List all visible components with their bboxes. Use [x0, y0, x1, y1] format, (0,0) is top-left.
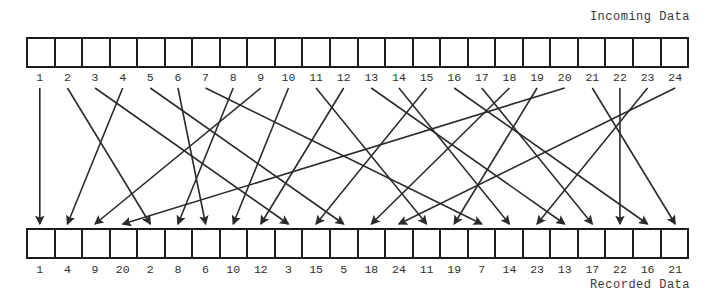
incoming-position-label: 23 [634, 69, 662, 87]
incoming-cell [83, 39, 111, 66]
connection-line [371, 88, 509, 224]
incoming-cell [193, 39, 221, 66]
incoming-position-label: 11 [302, 69, 330, 87]
recorded-cell [551, 230, 579, 257]
recorded-cell [111, 230, 139, 257]
recorded-position-label: 12 [247, 261, 275, 279]
incoming-position-label: 20 [551, 69, 579, 87]
recorded-cell [386, 230, 414, 257]
recorded-cell [662, 230, 688, 257]
recorded-position-label: 24 [385, 261, 413, 279]
incoming-position-label: 5 [137, 69, 165, 87]
recorded-position-label: 2 [137, 261, 165, 279]
connection-line [67, 88, 150, 224]
incoming-position-label: 16 [440, 69, 468, 87]
connection-line [399, 88, 675, 224]
incoming-cell [634, 39, 662, 66]
incoming-cell [166, 39, 194, 66]
incoming-cell [111, 39, 139, 66]
incoming-position-label: 15 [413, 69, 441, 87]
incoming-cell [221, 39, 249, 66]
connection-line [150, 88, 343, 224]
recorded-label-row: 149202861012315518241119714231317221621 [26, 261, 689, 279]
incoming-position-label: 18 [496, 69, 524, 87]
incoming-cell [441, 39, 469, 66]
recorded-position-label: 3 [275, 261, 303, 279]
incoming-position-label: 14 [385, 69, 413, 87]
connection-line [233, 88, 288, 224]
recorded-cell [303, 230, 331, 257]
incoming-position-label: 10 [275, 69, 303, 87]
recorded-cell [221, 230, 249, 257]
connection-line [316, 88, 427, 224]
incoming-cell [276, 39, 304, 66]
connection-line [399, 88, 510, 224]
connection-line [95, 88, 261, 224]
connection-line [206, 88, 482, 224]
incoming-position-label: 22 [606, 69, 634, 87]
incoming-cell [331, 39, 359, 66]
incoming-position-label: 12 [330, 69, 358, 87]
connection-line [454, 88, 647, 224]
incoming-position-label: 17 [468, 69, 496, 87]
recorded-position-label: 16 [634, 261, 662, 279]
recorded-data-caption: Recorded Data [590, 278, 690, 292]
recorded-cell [138, 230, 166, 257]
recorded-cell [359, 230, 387, 257]
connection-line [371, 88, 564, 224]
recorded-position-label: 6 [192, 261, 220, 279]
recorded-position-label: 1 [26, 261, 54, 279]
incoming-cell [386, 39, 414, 66]
incoming-position-label: 7 [192, 69, 220, 87]
incoming-position-label: 21 [579, 69, 607, 87]
incoming-cell [524, 39, 552, 66]
recorded-position-label: 11 [413, 261, 441, 279]
recorded-position-label: 14 [496, 261, 524, 279]
interleaver-diagram: Incoming Data 12345678910111213141516171… [0, 0, 714, 299]
recorded-position-label: 21 [661, 261, 689, 279]
recorded-cell [331, 230, 359, 257]
connection-line [123, 88, 565, 224]
incoming-label-row: 123456789101112131415161718192021222324 [26, 69, 689, 87]
incoming-position-label: 2 [54, 69, 82, 87]
recorded-position-label: 4 [54, 261, 82, 279]
incoming-data-caption: Incoming Data [590, 10, 690, 24]
incoming-position-label: 19 [523, 69, 551, 87]
incoming-data-tape [26, 37, 689, 68]
incoming-position-label: 9 [247, 69, 275, 87]
recorded-data-tape [26, 228, 689, 259]
incoming-position-label: 3 [81, 69, 109, 87]
incoming-cell [248, 39, 276, 66]
recorded-position-label: 22 [606, 261, 634, 279]
recorded-position-label: 18 [358, 261, 386, 279]
recorded-position-label: 13 [551, 261, 579, 279]
recorded-cell [634, 230, 662, 257]
recorded-position-label: 8 [164, 261, 192, 279]
incoming-cell [359, 39, 387, 66]
connection-line [316, 88, 427, 224]
recorded-position-label: 15 [302, 261, 330, 279]
connection-line [537, 88, 648, 224]
recorded-cell [56, 230, 84, 257]
recorded-cell [414, 230, 442, 257]
incoming-cell [138, 39, 166, 66]
recorded-cell [606, 230, 634, 257]
recorded-position-label: 23 [523, 261, 551, 279]
incoming-cell [551, 39, 579, 66]
incoming-position-label: 8 [219, 69, 247, 87]
incoming-cell [56, 39, 84, 66]
connection-line [95, 88, 288, 224]
connection-line [261, 88, 344, 224]
recorded-cell [28, 230, 56, 257]
recorded-cell [579, 230, 607, 257]
recorded-cell [469, 230, 497, 257]
connection-line [178, 88, 233, 224]
recorded-position-label: 9 [81, 261, 109, 279]
incoming-cell [496, 39, 524, 66]
recorded-position-label: 17 [579, 261, 607, 279]
incoming-cell [606, 39, 634, 66]
recorded-cell [496, 230, 524, 257]
recorded-cell [166, 230, 194, 257]
recorded-cell [276, 230, 304, 257]
connection-line [67, 88, 122, 224]
